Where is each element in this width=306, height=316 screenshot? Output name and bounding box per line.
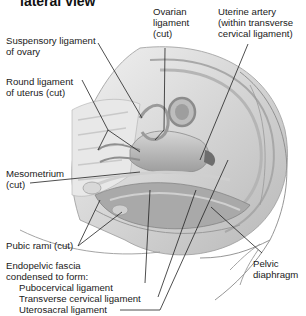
label-pubocervical-ligament: Pubocervical ligament bbox=[19, 282, 113, 293]
label-round-ligament: Round ligament of uterus (cut) bbox=[6, 76, 73, 98]
label-pelvic-diaphragm: Pelvic diaphragm bbox=[253, 258, 298, 280]
view-title: lateral view bbox=[20, 0, 96, 9]
label-uterine-artery: Uterine artery (within transverse cervic… bbox=[218, 6, 293, 39]
label-transverse-cervical-ligament: Transverse cervical ligament bbox=[19, 293, 141, 304]
label-ovarian-ligament: Ovarian ligament (cut) bbox=[153, 6, 189, 39]
label-uterosacral-ligament: Uterosacral ligament bbox=[19, 304, 107, 315]
label-endopelvic-fascia: Endopelvic fascia condensed to form: bbox=[6, 260, 88, 282]
label-pubic-rami: Pubic rami (cut) bbox=[6, 240, 73, 251]
label-suspensory-ligament: Suspensory ligament of ovary bbox=[6, 35, 96, 57]
label-mesometrium: Mesometrium (cut) bbox=[6, 168, 64, 190]
